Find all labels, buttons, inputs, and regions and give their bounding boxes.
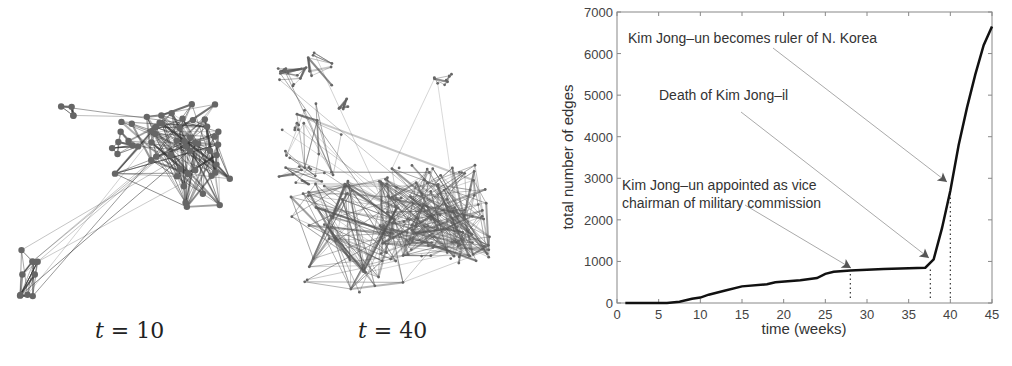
graph-node <box>467 254 470 257</box>
graph-node <box>292 173 295 176</box>
graph-node <box>320 180 323 183</box>
graph-node <box>117 128 123 134</box>
graph-node <box>381 242 384 245</box>
graph-node <box>346 192 349 195</box>
network-t10-drawing <box>0 80 260 320</box>
y-tick-label: 4000 <box>584 130 613 145</box>
graph-node <box>208 173 214 179</box>
x-tick-label: 30 <box>860 307 874 322</box>
graph-node <box>177 166 183 172</box>
graph-node <box>284 150 287 153</box>
graph-node <box>394 260 397 263</box>
x-axis-ticks: 051015202530354045 <box>613 12 999 322</box>
x-tick-label: 0 <box>613 307 620 322</box>
graph-node <box>212 101 218 107</box>
graph-node <box>323 185 326 188</box>
annotation-text: chairman of military commission <box>622 195 821 211</box>
graph-node <box>148 139 154 145</box>
graph-node <box>406 231 409 234</box>
graph-node <box>415 226 418 229</box>
x-tick-label: 40 <box>943 307 957 322</box>
graph-node <box>381 259 384 262</box>
annotation-text: Kim Jong–un becomes ruler of N. Korea <box>628 30 877 46</box>
graph-node <box>455 209 458 212</box>
graph-node <box>402 281 405 284</box>
graph-node <box>451 241 454 244</box>
annotation-text: Death of Kim Jong–il <box>659 87 788 103</box>
graph-node <box>301 179 304 182</box>
graph-node <box>463 172 466 175</box>
annotation-arrows <box>741 48 947 268</box>
graph-node <box>408 242 411 245</box>
graph-node <box>429 190 432 193</box>
graph-node <box>303 68 306 71</box>
graph-node <box>331 62 334 65</box>
graph-node <box>182 138 188 144</box>
graph-node <box>349 259 352 262</box>
graph-node <box>386 176 389 179</box>
network-graph-t10: t = 10 <box>0 80 260 320</box>
graph-node <box>187 148 193 154</box>
graph-node <box>439 213 442 216</box>
graph-node <box>453 255 456 258</box>
annotation-text: Kim Jong–un appointed as vice <box>622 177 817 193</box>
graph-node <box>487 248 490 251</box>
graph-node <box>68 104 74 110</box>
graph-node <box>329 214 332 217</box>
graph-node <box>292 83 295 86</box>
graph-node <box>184 204 190 210</box>
graph-node <box>423 210 426 213</box>
graph-node <box>487 256 490 259</box>
graph-node <box>398 167 401 170</box>
graph-node <box>213 161 219 167</box>
graph-node <box>469 188 472 191</box>
event-markers <box>850 191 950 298</box>
graph-node <box>277 67 280 70</box>
chart-svg: 01000200030004000500060007000 0510152025… <box>555 0 1012 366</box>
y-tick-label: 0 <box>606 296 613 311</box>
graph-node <box>458 171 461 174</box>
graph-node <box>346 180 349 183</box>
graph-node <box>381 183 384 186</box>
graph-node <box>412 232 415 235</box>
graph-node <box>290 196 293 199</box>
graph-node <box>470 233 473 236</box>
graph-node <box>345 97 348 100</box>
graph-node <box>426 182 429 185</box>
x-tick-label: 5 <box>655 307 662 322</box>
graph-node <box>189 101 195 107</box>
graph-node <box>437 183 440 186</box>
graph-node <box>204 123 210 129</box>
graph-node <box>472 179 475 182</box>
graph-node <box>278 175 281 178</box>
graph-node <box>461 231 464 234</box>
graph-node <box>349 288 352 291</box>
graph-node <box>330 84 333 87</box>
graph-node <box>173 138 179 144</box>
x-tick-label: 15 <box>735 307 749 322</box>
x-tick-label: 10 <box>693 307 707 322</box>
graph-node <box>307 183 310 186</box>
graph-node <box>455 226 458 229</box>
graph-node <box>296 113 299 116</box>
graph-node <box>411 229 414 232</box>
y-axis-ticks: 01000200030004000500060007000 <box>584 5 992 311</box>
graph-node <box>303 280 306 283</box>
graph-node <box>450 73 453 76</box>
graph-node <box>312 54 315 57</box>
graph-node <box>451 167 454 170</box>
graph-node <box>445 79 448 82</box>
graph-node <box>332 174 335 177</box>
graph-node <box>445 205 448 208</box>
graph-node <box>303 166 306 169</box>
graph-node <box>457 240 460 243</box>
arrowhead-icon <box>919 249 929 258</box>
graph-node <box>481 209 484 212</box>
graph-node <box>342 108 345 111</box>
graph-node <box>70 113 76 119</box>
graph-node <box>307 194 310 197</box>
graph-node <box>307 191 310 194</box>
graph-node <box>288 156 291 159</box>
graph-node <box>362 270 365 273</box>
graph-node <box>331 217 334 220</box>
